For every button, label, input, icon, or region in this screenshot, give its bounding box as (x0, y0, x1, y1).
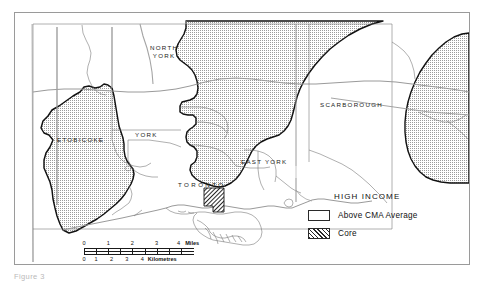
place-label-east-york: EAST YORK (241, 158, 287, 165)
place-label-toronto: TORONTO (178, 181, 226, 188)
place-label-line: NORTH (150, 44, 178, 52)
legend-item-core: Core (308, 228, 448, 239)
scalebar-tick: 2 (110, 256, 113, 262)
legend-swatch-dotted-pattern (308, 210, 330, 221)
scalebar-tick: 1 (95, 256, 98, 262)
place-label-line: YORK (150, 52, 178, 60)
legend-label-above-cma-average: Above CMA Average (338, 211, 418, 220)
legend-title: HIGH INCOME (334, 192, 448, 201)
scalebar-bar (84, 248, 194, 255)
scalebar-unit-kilometres: Kilometres (148, 256, 177, 262)
place-label-north-york: NORTH YORK (150, 44, 178, 60)
scalebar-tick: 3 (125, 256, 128, 262)
figure-caption: Figure 3 (14, 272, 45, 281)
scalebar-tick: 1 (107, 240, 110, 246)
legend-item-above-cma-average: Above CMA Average (308, 210, 448, 221)
scalebar-km-ticks: 0 1 2 3 4 Kilometres (84, 256, 194, 264)
scalebar-miles-ticks: 0 1 2 3 4 Miles (84, 240, 194, 248)
map-scalebar: 0 1 2 3 4 Miles 0 1 2 3 4 Kilometres (84, 240, 194, 264)
place-label-etobicoke: ETOBICOKE (57, 136, 104, 143)
legend-label-core: Core (338, 229, 357, 238)
place-label-scarborough: SCARBOROUGH (320, 101, 383, 108)
map-legend: HIGH INCOME Above CMA Average Core (308, 192, 448, 246)
scalebar-tick: 2 (131, 240, 134, 246)
scalebar-unit-miles: Miles (185, 240, 199, 246)
scalebar-tick: 3 (155, 240, 158, 246)
scalebar-tick: 0 (82, 240, 85, 246)
scalebar-tick: 4 (141, 256, 144, 262)
place-label-york: YORK (135, 131, 158, 138)
scalebar-tick: 4 (177, 240, 180, 246)
scalebar-tick: 0 (82, 256, 85, 262)
legend-swatch-diagonal-hatch (308, 228, 330, 239)
figure-page: NORTH YORK ETOBICOKE YORK EAST YORK SCAR… (0, 0, 484, 287)
